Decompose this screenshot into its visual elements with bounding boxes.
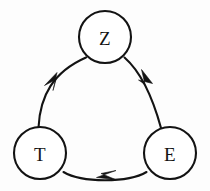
edge-t-to-z-path — [39, 58, 87, 128]
node-z[interactable]: Z — [79, 11, 131, 63]
node-z-label: Z — [99, 28, 111, 49]
node-t-label: T — [34, 144, 46, 165]
node-t[interactable]: T — [14, 127, 66, 179]
node-e-label: E — [164, 144, 176, 165]
directed-cycle-graph: Z T E — [0, 0, 210, 191]
edge-e-to-t — [64, 171, 147, 181]
edge-t-to-z-arrowhead-icon — [45, 73, 58, 91]
edge-t-to-z — [39, 58, 87, 128]
edge-e-to-t-arrowhead-icon — [97, 171, 117, 180]
node-e[interactable]: E — [144, 127, 196, 179]
edge-z-to-e-path — [125, 58, 162, 129]
edge-z-to-e — [125, 58, 162, 129]
diagram-canvas: Z T E — [0, 0, 210, 191]
